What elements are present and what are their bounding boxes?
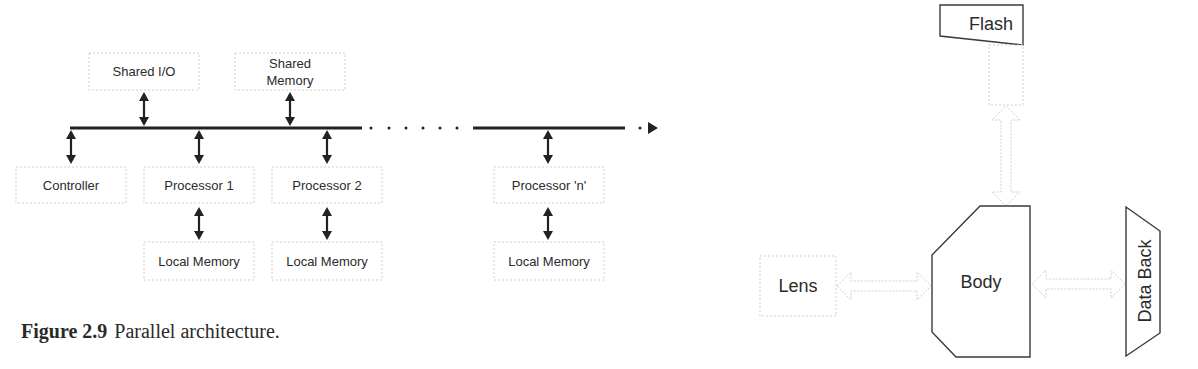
node-flash: Flash	[940, 5, 1023, 45]
arrow-shared-memory-bus	[285, 92, 295, 126]
arrow-processor-1-local-memory	[194, 207, 204, 240]
node-label: Shared I/O	[113, 64, 176, 79]
node-label: Flash	[969, 14, 1013, 34]
bus-ellipsis-dots	[370, 127, 459, 130]
arrow-shared-io-bus	[139, 92, 149, 126]
node-label-line-2: Memory	[267, 73, 314, 88]
arrow-body-data-back	[1032, 270, 1125, 298]
figure-number: Figure 2.9	[21, 320, 107, 342]
node-label: Local Memory	[158, 254, 240, 269]
node-processor-2: Processor 2	[272, 167, 382, 203]
node-processor-1: Processor 1	[144, 167, 254, 203]
figure-caption: Figure 2.9Parallel architecture.	[21, 320, 280, 343]
parallel-architecture-diagram: Shared I/O Shared Memory	[16, 53, 658, 280]
node-label: Data Back	[1135, 238, 1155, 322]
node-local-memory-2: Local Memory	[272, 242, 382, 280]
node-label: Local Memory	[286, 254, 368, 269]
arrow-bus-controller	[66, 130, 76, 164]
node-label: Local Memory	[508, 254, 590, 269]
node-label: Processor 1	[164, 178, 233, 193]
arrow-bus-processor-1	[194, 130, 204, 164]
system-bus	[70, 122, 658, 134]
flash-mount	[989, 45, 1023, 105]
node-local-memory-1: Local Memory	[144, 242, 254, 280]
node-controller: Controller	[16, 167, 126, 203]
node-label: Body	[960, 272, 1001, 292]
arrow-bus-processor-2	[322, 130, 332, 164]
node-label-line-1: Shared	[269, 56, 311, 71]
camera-system-diagram: Flash Lens Body Data Back	[760, 5, 1160, 357]
diagram-canvas: Shared I/O Shared Memory	[0, 0, 1198, 369]
arrow-lens-body	[837, 272, 931, 300]
figure-title: Parallel architecture.	[114, 320, 279, 342]
node-body: Body	[932, 206, 1030, 357]
bus-end-dot	[639, 127, 642, 130]
node-label: Lens	[778, 276, 817, 296]
arrow-processor-2-local-memory	[322, 207, 332, 240]
arrow-flash-body	[992, 106, 1020, 206]
node-label: Controller	[43, 178, 100, 193]
node-processor-n: Processor 'n'	[494, 167, 604, 203]
node-label: Processor 2	[292, 178, 361, 193]
node-local-memory-n: Local Memory	[494, 242, 604, 280]
arrow-bus-processor-n	[543, 130, 553, 164]
node-data-back: Data Back	[1126, 207, 1160, 356]
bus-continuation-arrow-icon	[648, 122, 658, 134]
node-label: Processor 'n'	[512, 178, 586, 193]
node-shared-io: Shared I/O	[89, 53, 199, 90]
node-shared-memory: Shared Memory	[235, 53, 345, 90]
node-lens: Lens	[760, 256, 836, 316]
arrow-processor-n-local-memory	[543, 207, 553, 240]
